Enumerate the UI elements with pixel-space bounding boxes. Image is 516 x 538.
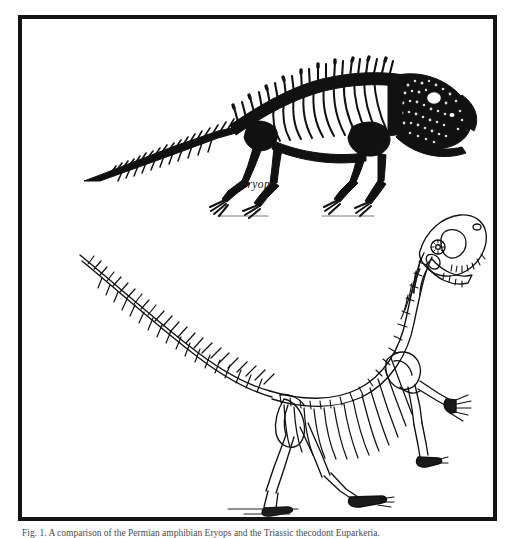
specimen-label-eryops: Eryops <box>22 178 493 190</box>
plate-page: Eryops <box>0 0 516 538</box>
figure-frame: Eryops <box>18 15 497 521</box>
plate-caption: Fig. 1. A comparison of the Permian amph… <box>22 528 492 538</box>
figure-inner: Eryops <box>22 19 493 517</box>
specimen-euparkeria: Euparkeria <box>22 209 493 517</box>
euparkeria-skeleton-illustration <box>22 209 493 517</box>
specimen-eryops: Eryops <box>22 19 493 219</box>
